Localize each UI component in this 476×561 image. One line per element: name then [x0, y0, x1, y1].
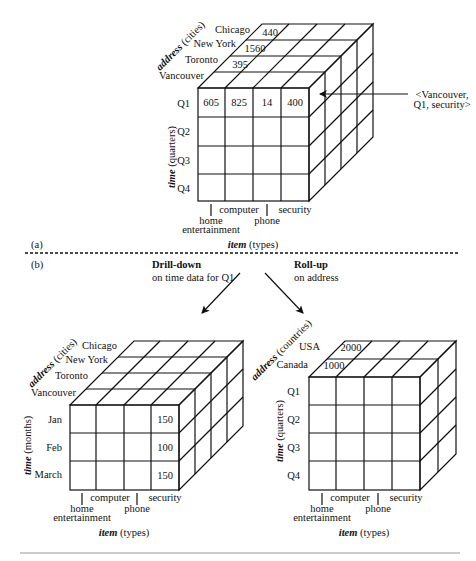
drilldown-title: Drill-down — [152, 259, 201, 270]
city-label-newyork: New York — [193, 38, 236, 49]
cell-q1-home: 605 — [203, 97, 219, 108]
cube-drilldown: 150 100 150 Chicago New York Toronto Van… — [22, 336, 243, 539]
ru-quarter-label-q3: Q3 — [287, 442, 300, 453]
dd-city-label-vancouver: Vancouver — [31, 387, 76, 398]
cell-newyork-home: 1560 — [245, 43, 266, 54]
city-label-toronto: Toronto — [185, 54, 218, 65]
ru-quarter-label-q2: Q2 — [287, 414, 300, 425]
ru-item-label-security: security — [389, 492, 423, 503]
ru-item-label-phone: phone — [365, 503, 391, 514]
ru-item-label-computer: computer — [330, 492, 370, 503]
rollup-top-face — [309, 341, 456, 377]
quarter-label-q4: Q4 — [177, 183, 191, 194]
quarter-label-q2: Q2 — [177, 126, 190, 137]
ru-time-axis-label: time (quarters) — [274, 399, 286, 462]
cell-toronto-home: 395 — [232, 59, 248, 70]
cell-jan-security: 150 — [157, 414, 173, 425]
cell-march-security: 150 — [157, 470, 173, 481]
cube-rollup: 2000 1000 USA Canada address (countries)… — [249, 317, 456, 539]
month-label-jan: Jan — [48, 414, 63, 425]
quarter-label-q1: Q1 — [177, 98, 190, 109]
cell-q1-phone: 14 — [262, 97, 273, 108]
panel-label-b: (b) — [31, 259, 44, 271]
olap-diagram: 605 825 14 400 440 1560 395 Chicago New … — [0, 0, 476, 561]
month-label-march: March — [35, 469, 63, 480]
city-label-vancouver: Vancouver — [159, 70, 204, 81]
item-label-entertainment: entertainment — [182, 224, 240, 235]
dd-item-label-entertainment: entertainment — [53, 512, 111, 523]
country-label-canada: Canada — [277, 359, 309, 370]
dd-city-label-newyork: New York — [65, 354, 108, 365]
drilldown-subtitle: on time data for Q1 — [152, 272, 234, 283]
dd-city-label-chicago: Chicago — [82, 340, 117, 351]
dd-city-label-toronto: Toronto — [55, 370, 88, 381]
dd-item-axis-label: item (types) — [99, 527, 150, 539]
cube-a: 605 825 14 400 440 1560 395 Chicago New … — [154, 19, 471, 251]
item-axis-label: item (types) — [228, 239, 279, 251]
ru-quarter-label-q1: Q1 — [287, 386, 300, 397]
rollup-title: Roll-up — [294, 259, 328, 270]
item-label-computer: computer — [219, 204, 259, 215]
item-label-security: security — [278, 204, 312, 215]
rollup-front-face — [309, 377, 420, 490]
ru-item-label-entertainment: entertainment — [293, 512, 351, 523]
month-label-feb: Feb — [46, 442, 62, 453]
item-label-phone: phone — [254, 215, 280, 226]
quarter-label-q3: Q3 — [177, 155, 190, 166]
dd-item-label-phone: phone — [124, 503, 150, 514]
country-label-usa: USA — [299, 341, 320, 352]
cell-q1-security: 400 — [287, 97, 303, 108]
cell-feb-security: 100 — [157, 442, 173, 453]
time-axis-label: time (quarters) — [166, 125, 178, 188]
ru-item-axis-label: item (types) — [339, 527, 390, 539]
annotation-line2: Q1, security> — [413, 99, 470, 110]
rollup-right-face — [420, 341, 456, 490]
cell-canada-home: 1000 — [324, 360, 345, 371]
cell-q1-computer: 825 — [231, 97, 247, 108]
ru-quarter-label-q4: Q4 — [287, 470, 301, 481]
dd-item-label-security: security — [148, 492, 182, 503]
city-label-chicago: Chicago — [215, 24, 250, 35]
panel-label-a: (a) — [31, 239, 43, 251]
rollup-subtitle: on address — [294, 272, 339, 283]
dd-item-label-computer: computer — [90, 492, 130, 503]
drilldown-right-face — [179, 341, 243, 490]
dd-time-axis-label: time (months) — [22, 415, 34, 475]
cell-chicago-home: 440 — [262, 27, 278, 38]
cell-usa-home: 2000 — [341, 342, 362, 353]
